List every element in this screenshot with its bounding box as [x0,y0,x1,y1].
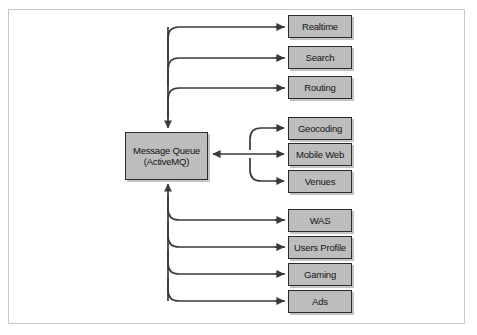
node-search-label: Search [306,52,335,63]
node-users-profile[interactable]: Users Profile [288,236,352,259]
connector-realtime-to-queue [168,27,285,60]
connector-geocoding-branch [250,128,284,150]
figure-root: Message Queue (ActiveMQ) Realtime Search… [0,0,477,335]
node-mobile-web[interactable]: Mobile Web [288,143,352,166]
node-ads[interactable]: Ads [288,290,352,313]
node-search[interactable]: Search [288,46,352,69]
connector-search-to-queue [168,58,285,86]
node-message-queue-line1: Message Queue [133,145,200,156]
node-gaming[interactable]: Gaming [288,263,352,286]
node-realtime[interactable]: Realtime [288,15,352,38]
connector-venues-branch [250,158,284,181]
node-realtime-label: Realtime [302,21,338,32]
connector-arrows [0,0,477,335]
node-gaming-label: Gaming [304,269,336,280]
node-ads-label: Ads [312,296,328,307]
connector-queue-to-gaming [168,250,285,274]
node-venues[interactable]: Venues [288,170,352,193]
node-message-queue[interactable]: Message Queue (ActiveMQ) [125,132,208,180]
node-message-queue-line2: (ActiveMQ) [144,156,190,167]
node-venues-label: Venues [305,176,336,187]
node-was-label: WAS [310,215,331,226]
connector-queue-to-ads [168,278,285,301]
connector-queue-to-users-profile [168,222,285,247]
node-geocoding-label: Geocoding [298,123,342,134]
node-mobile-web-label: Mobile Web [296,149,344,160]
node-geocoding[interactable]: Geocoding [288,117,352,140]
node-routing-label: Routing [304,82,335,93]
node-routing[interactable]: Routing [288,76,352,99]
connector-routing-to-queue [168,88,285,118]
connector-queue-to-was [168,196,285,220]
node-users-profile-label: Users Profile [294,242,346,253]
node-was[interactable]: WAS [288,209,352,232]
